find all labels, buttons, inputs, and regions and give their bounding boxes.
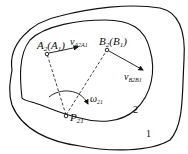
- diagram-canvas: A2(A1) vA2A1 B2(B1) vB2B1 ω21 P21 2 1: [0, 0, 188, 154]
- relative-velocity-diagram: A2(A1) vA2A1 B2(B1) vB2B1 ω21 P21 2 1: [0, 0, 188, 154]
- point-p21: [64, 114, 68, 118]
- dashed-line-p-a: [47, 54, 66, 115]
- label-a: A2(A1): [36, 39, 65, 53]
- label-b: B2(B1): [99, 35, 127, 49]
- label-body-1: 1: [146, 128, 151, 139]
- velocity-arrow-b: [109, 51, 143, 70]
- label-p21: P21: [69, 111, 84, 125]
- omega-rotation-arrow: [49, 91, 88, 104]
- label-v-a: vA2A1: [70, 36, 88, 48]
- label-omega: ω21: [90, 93, 103, 105]
- dashed-line-p-b: [66, 50, 107, 115]
- body-1-outline: [10, 6, 185, 150]
- label-v-b: vB2B1: [124, 71, 142, 83]
- label-body-2: 2: [133, 104, 138, 115]
